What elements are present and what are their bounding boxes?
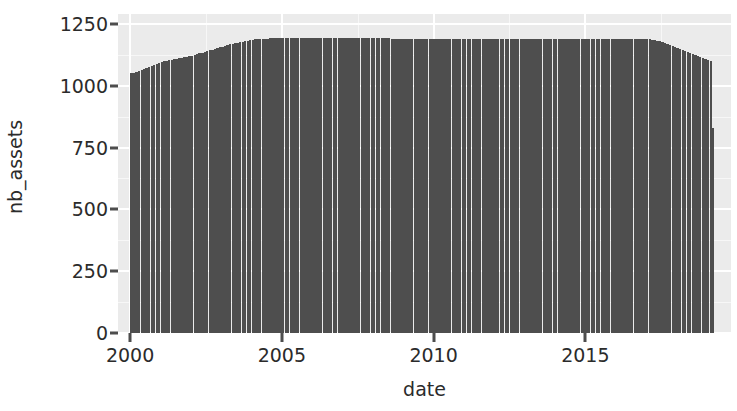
x-axis-tick-labels: 2000200520102015	[118, 344, 731, 372]
y-axis-tick-mark	[110, 270, 118, 273]
y-axis-tick-mark	[110, 146, 118, 149]
y-axis-tick-labels: 025050075010001250	[30, 0, 108, 411]
y-axis-title: nb_assets	[0, 0, 30, 333]
y-axis-tick-mark	[110, 22, 118, 25]
x-axis-tick-label: 2015	[561, 344, 609, 367]
y-axis-tick-mark	[110, 84, 118, 87]
x-axis-tick-mark	[432, 333, 435, 342]
x-axis-tick-mark	[280, 333, 283, 342]
y-axis-title-text: nb_assets	[4, 119, 26, 213]
y-axis-tick-marks	[110, 0, 118, 411]
x-axis-tick-label: 2005	[258, 344, 306, 367]
x-axis-tick-label: 2000	[106, 344, 154, 367]
x-axis-tick-mark	[584, 333, 587, 342]
y-axis-tick-label: 500	[30, 200, 108, 219]
x-axis-tick-mark	[129, 333, 132, 342]
plot-panel	[118, 14, 731, 333]
chart-container: nb_assets 025050075010001250 20002005201…	[0, 0, 737, 411]
x-axis-tick-label: 2010	[409, 344, 457, 367]
y-axis-tick-label: 1250	[30, 14, 108, 33]
bar-series	[118, 14, 731, 333]
y-axis-tick-mark	[110, 208, 118, 211]
x-axis-title: date	[118, 378, 731, 400]
x-axis-tick-marks	[118, 333, 731, 342]
y-axis-tick-label: 1000	[30, 76, 108, 95]
y-axis-tick-label: 0	[30, 324, 108, 343]
y-axis-tick-label: 750	[30, 138, 108, 157]
bar	[712, 128, 714, 333]
y-axis-tick-mark	[110, 332, 118, 335]
y-axis-tick-label: 250	[30, 262, 108, 281]
